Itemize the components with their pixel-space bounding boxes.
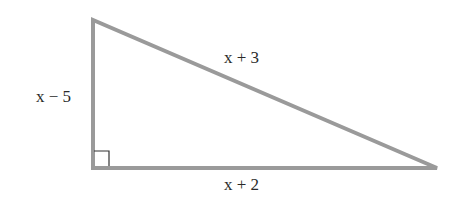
triangle-outline [93, 20, 437, 168]
right-triangle-diagram: x − 5 x + 3 x + 2 [0, 0, 465, 213]
hypotenuse-label: x + 3 [224, 48, 259, 68]
horizontal-leg-label: x + 2 [224, 175, 259, 195]
right-angle-marker [94, 151, 109, 166]
vertical-leg-label: x − 5 [36, 87, 71, 107]
